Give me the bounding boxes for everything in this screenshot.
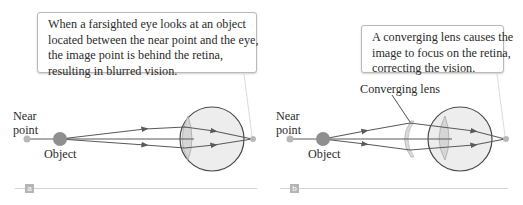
panel-a-rule <box>15 188 257 189</box>
callout-line: When a farsighted eye looks at an object <box>48 17 248 33</box>
near-point-label: Near point <box>13 110 38 137</box>
callout-pointer <box>497 74 505 136</box>
near-label-line: Near <box>276 110 301 124</box>
image-point-icon <box>503 136 509 142</box>
near-label-line: Near <box>13 110 38 124</box>
panel-b-tag: b <box>290 184 299 193</box>
callout-line: correcting the vision. <box>372 61 495 77</box>
image-point-icon <box>250 136 256 142</box>
object-icon <box>53 132 67 146</box>
point-label-line: point <box>276 124 301 138</box>
object-label: Object <box>308 148 341 162</box>
callout-farsighted: When a farsighted eye looks at an object… <box>37 12 257 73</box>
callout-line: located between the near point and the e… <box>48 33 248 49</box>
callout-line: image to focus on the retina, <box>372 46 495 62</box>
callout-converging: A converging lens causes the image to fo… <box>361 25 504 73</box>
converging-lens-label: Converging lens <box>360 83 440 97</box>
ray-lower <box>60 139 145 145</box>
panel-b-rule <box>280 188 508 189</box>
callout-line: A converging lens causes the <box>372 30 495 46</box>
callout-line: the image point is behind the retina, <box>48 48 248 64</box>
ray-upper <box>60 129 145 139</box>
point-label-line: point <box>13 124 38 138</box>
object-icon <box>316 132 330 146</box>
object-label: Object <box>44 148 77 162</box>
callout-line: resulting in blurred vision. <box>48 64 248 80</box>
panel-a-tag: a <box>25 184 34 193</box>
lens-label-pointer <box>392 95 410 122</box>
near-point-label: Near point <box>276 110 301 137</box>
callout-pointer <box>244 74 252 136</box>
